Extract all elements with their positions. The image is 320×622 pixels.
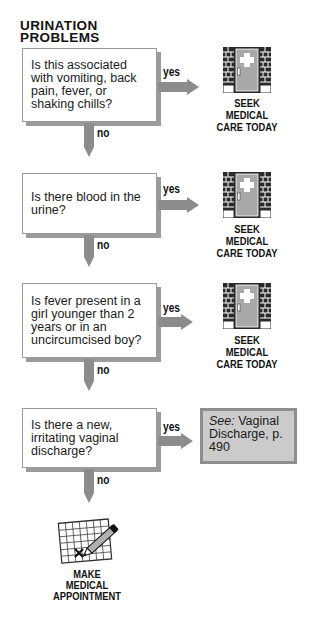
question-box-3: Is fever present in a girl younger than … [22, 283, 157, 358]
outcome-line-3: CARE TODAY [213, 247, 281, 259]
no-label-2: no [97, 238, 109, 252]
outcome-line-1: SEEK [213, 334, 281, 346]
outcome-seek-care-2: SEEK MEDICAL CARE TODAY [213, 223, 281, 259]
outcome-line-2: MEDICAL [213, 235, 281, 247]
medical-door-icon [223, 172, 271, 218]
yes-label-2: yes [163, 182, 180, 196]
outcome-line-1: SEEK [213, 97, 281, 109]
flowchart-title: URINATION PROBLEMS [20, 20, 100, 43]
question-text-2: Is there blood in the urine? [31, 191, 146, 217]
question-text-4: Is there a new, irritating vaginal disch… [31, 419, 146, 458]
outcome-line-3: CARE TODAY [213, 358, 281, 370]
question-box-4: Is there a new, irritating vaginal disch… [22, 408, 157, 468]
outcome-line-1: SEEK [213, 223, 281, 235]
see-reference-box: See: Vaginal Discharge, p. 490 [200, 408, 297, 464]
title-line-2: PROBLEMS [20, 32, 100, 44]
final-line-3: APPOINTMENT [45, 591, 130, 602]
yes-label-4: yes [163, 420, 180, 434]
no-label-4: no [97, 473, 109, 487]
make-appointment-caption: MAKE MEDICAL APPOINTMENT [45, 569, 130, 602]
question-box-1: Is this associated with vomiting, back p… [22, 48, 157, 122]
outcome-line-3: CARE TODAY [213, 121, 281, 133]
medical-door-icon [223, 47, 271, 93]
calendar-pencil-icon [56, 515, 126, 567]
outcome-seek-care-3: SEEK MEDICAL CARE TODAY [213, 334, 281, 370]
see-prefix: See: [209, 414, 235, 428]
yes-label-3: yes [163, 301, 180, 315]
outcome-line-2: MEDICAL [213, 109, 281, 121]
question-box-2: Is there blood in the urine? [22, 173, 157, 234]
no-label-3: no [97, 363, 109, 377]
yes-label-1: yes [163, 65, 180, 79]
question-text-3: Is fever present in a girl younger than … [31, 295, 146, 347]
outcome-line-2: MEDICAL [213, 346, 281, 358]
medical-door-icon [223, 283, 271, 329]
outcome-seek-care-1: SEEK MEDICAL CARE TODAY [213, 97, 281, 133]
no-label-1: no [97, 126, 109, 140]
question-text-1: Is this associated with vomiting, back p… [31, 59, 146, 111]
